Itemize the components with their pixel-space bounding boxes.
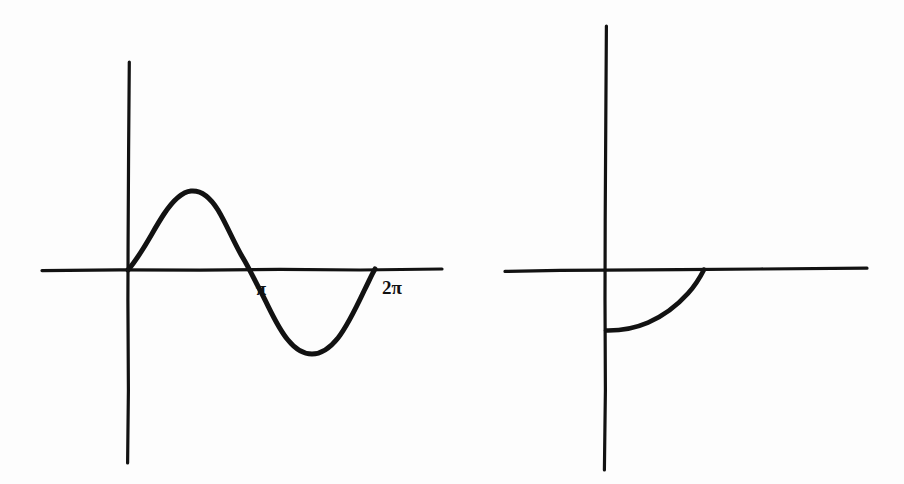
right-panel-x-axis bbox=[505, 268, 867, 271]
sine-wave-curve bbox=[128, 191, 375, 354]
concave-arc-curve bbox=[606, 270, 704, 331]
figure-page: π 2π bbox=[0, 0, 904, 484]
two-pi-tick-label: 2π bbox=[382, 277, 403, 298]
pi-tick-label: π bbox=[256, 278, 267, 299]
right-panel-y-axis bbox=[604, 26, 606, 470]
left-panel-x-axis bbox=[42, 269, 442, 271]
math-figure: π 2π bbox=[0, 0, 904, 484]
right-panel bbox=[505, 26, 867, 470]
left-panel-y-axis bbox=[128, 62, 130, 463]
left-panel: π 2π bbox=[42, 62, 442, 463]
